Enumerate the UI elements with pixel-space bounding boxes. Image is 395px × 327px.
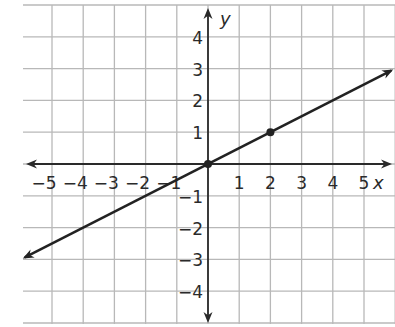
y-tick-label: 4: [192, 28, 203, 48]
coordinate-plane: −5−4−3−2−1123454321−1−2−3−4 x y: [0, 0, 395, 327]
x-tick-label: −5: [31, 173, 56, 193]
y-axis-label: y: [219, 8, 231, 29]
y-tick-label: −3: [178, 250, 203, 270]
y-tick-label: 3: [192, 60, 203, 80]
x-axis-label: x: [372, 172, 384, 193]
x-tick-label: 3: [296, 173, 307, 193]
data-point: [204, 160, 212, 168]
y-tick-label: −4: [178, 282, 203, 302]
x-tick-label: −4: [63, 173, 88, 193]
y-tick-label: 2: [192, 91, 203, 111]
y-tick-label: −2: [178, 219, 203, 239]
data-point: [266, 128, 274, 136]
x-tick-label: 5: [359, 173, 370, 193]
x-tick-label: 1: [234, 173, 245, 193]
y-tick-label: −1: [178, 187, 203, 207]
x-tick-label: −2: [125, 173, 150, 193]
x-tick-label: 4: [327, 173, 338, 193]
y-tick-label: 1: [192, 123, 203, 143]
x-tick-label: 2: [265, 173, 276, 193]
x-tick-label: −3: [94, 173, 119, 193]
